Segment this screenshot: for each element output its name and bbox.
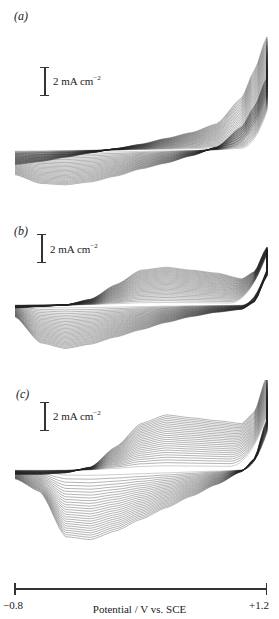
- panel-c: (c) 2 mA cm−2: [0, 380, 279, 560]
- scale-bar-icon: [40, 402, 49, 431]
- cycle-curve: [15, 247, 267, 347]
- cycle-curve: [15, 248, 267, 345]
- voltammogram-a: [0, 0, 279, 200]
- scale-bar-icon: [40, 67, 49, 96]
- scale-bar-label-a: 2 mA cm: [53, 75, 93, 87]
- axis-tick-max: [266, 583, 268, 595]
- panel-label-c: (c): [16, 387, 29, 402]
- cycle-curve: [15, 380, 267, 540]
- cycle-curve: [15, 381, 267, 530]
- cycle-curve: [15, 414, 267, 480]
- cycle-curve: [15, 416, 267, 475]
- cycle-curve: [15, 380, 267, 535]
- axis-tick-min: [14, 583, 16, 595]
- panel-label-b: (b): [14, 224, 28, 239]
- panel-label-a: (a): [14, 9, 28, 24]
- scale-bar-label-b: 2 mA cm: [50, 243, 90, 255]
- scale-bar-exponent: −2: [93, 74, 100, 82]
- scale-bar-icon: [37, 234, 46, 263]
- x-axis-title: Potential / V vs. SCE: [0, 603, 279, 615]
- axis-line: [14, 588, 267, 590]
- scale-bar-exponent: −2: [90, 242, 97, 250]
- panel-a: (a) 2 mA cm−2: [0, 0, 279, 200]
- scale-bar-label-c: 2 mA cm: [53, 410, 93, 422]
- potential-axis: [14, 583, 267, 593]
- voltammogram-b: [0, 190, 279, 380]
- panel-b: (b) 2 mA cm−2: [0, 190, 279, 380]
- cycle-curve: [15, 380, 267, 533]
- scale-bar-exponent: −2: [93, 409, 100, 417]
